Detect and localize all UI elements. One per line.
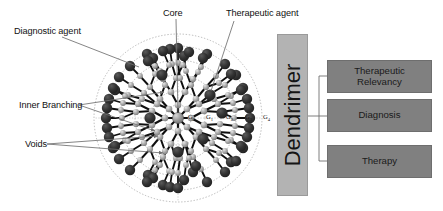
generation-label-g1: G1 bbox=[206, 113, 213, 122]
panel-box-therapy[interactable]: Therapy bbox=[327, 145, 432, 178]
figure-canvas: Diagnostic agent Core Therapeutic agent … bbox=[0, 0, 443, 211]
dendrimer-label: Dendrimer bbox=[280, 64, 306, 167]
callout-diagnostic-agent: Diagnostic agent bbox=[14, 27, 81, 37]
callout-inner-branching: Inner Branching bbox=[19, 101, 82, 111]
panel-box-diagnosis[interactable]: Diagnosis bbox=[327, 99, 432, 132]
panel-box-label: Diagnosis bbox=[358, 110, 400, 121]
bracket-connector bbox=[308, 76, 327, 161]
panel-box-therapeutic-relevancy[interactable]: TherapeuticRelevancy bbox=[327, 60, 432, 93]
panel-box-label: TherapeuticRelevancy bbox=[354, 66, 405, 87]
core-sphere bbox=[172, 112, 183, 123]
generation-label-g3: G3 bbox=[245, 113, 252, 122]
generation-label-g0: G0 bbox=[188, 113, 195, 122]
panel-box-label: Therapy bbox=[362, 156, 397, 167]
generation-label-g2: G2 bbox=[226, 113, 233, 122]
callout-core: Core bbox=[163, 9, 183, 19]
callout-voids: Voids bbox=[25, 140, 47, 150]
dendrimer-source-box: Dendrimer bbox=[277, 34, 308, 196]
generation-label-g4: G4 bbox=[263, 113, 270, 122]
callout-therapeutic-agent: Therapeutic agent bbox=[226, 9, 298, 19]
